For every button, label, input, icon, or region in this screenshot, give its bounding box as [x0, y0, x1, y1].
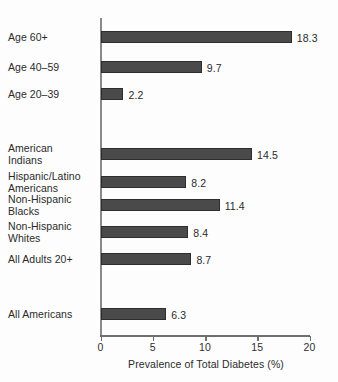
category-label: Age 20–39: [8, 89, 98, 101]
bar-value-label: 2.2: [128, 89, 143, 101]
category-label-line-1: Age 40–59: [8, 61, 59, 73]
category-label-line-1: All Americans: [8, 308, 72, 320]
bar: [101, 176, 187, 188]
bar-value-label: 8.2: [191, 177, 206, 189]
bar: [101, 61, 202, 73]
plot-area: 05101520 18.39.72.214.58.211.48.48.76.3 …: [0, 0, 338, 382]
category-label: Age 40–59: [8, 62, 98, 74]
bar-value-label: 14.5: [257, 149, 278, 161]
category-label-line-1: All Adults 20+: [8, 253, 73, 265]
bar: [101, 253, 192, 265]
category-label-line-1: American: [8, 142, 53, 154]
category-label-line-2: Indians: [8, 155, 98, 167]
category-label-line-2: Blacks: [8, 206, 98, 218]
bar-value-label: 18.3: [297, 32, 318, 44]
bar: [101, 148, 253, 160]
category-label-line-1: Hispanic/Latino: [8, 170, 81, 182]
x-axis-tick-label: 20: [295, 341, 325, 353]
category-label: Non-HispanicBlacks: [8, 194, 98, 217]
x-axis-tick-label: 10: [190, 341, 220, 353]
bar: [101, 199, 220, 211]
category-label-line-1: Age 20–39: [8, 88, 59, 100]
bar-value-label: 11.4: [225, 200, 245, 212]
category-label-line-1: Age 60+: [8, 31, 48, 43]
bar: [101, 226, 189, 238]
x-axis-title: Prevalence of Total Diabetes (%): [100, 358, 312, 370]
category-label: AmericanIndians: [8, 143, 98, 166]
category-label-line-2: Whites: [8, 233, 98, 245]
bar-value-label: 8.7: [196, 254, 211, 266]
category-label: Hispanic/LatinoAmericans: [8, 171, 98, 194]
bar-value-label: 9.7: [207, 62, 222, 74]
category-label: Non-HispanicWhites: [8, 221, 98, 244]
category-label-line-1: Non-Hispanic: [8, 193, 72, 205]
x-axis-tick-label: 5: [138, 341, 168, 353]
category-label-line-1: Non-Hispanic: [8, 220, 72, 232]
bar: [101, 31, 292, 43]
bar-value-label: 6.3: [171, 309, 186, 321]
category-label: All Adults 20+: [8, 254, 98, 266]
x-axis-tick-label: 0: [86, 341, 116, 353]
bar: [101, 308, 167, 320]
bar-value-label: 8.4: [193, 227, 208, 239]
category-label: All Americans: [8, 309, 98, 321]
bar: [101, 88, 124, 100]
x-axis-tick-label: 15: [242, 341, 272, 353]
category-label: Age 60+: [8, 32, 98, 44]
diabetes-prevalence-bar-chart: 05101520 18.39.72.214.58.211.48.48.76.3 …: [0, 0, 338, 382]
